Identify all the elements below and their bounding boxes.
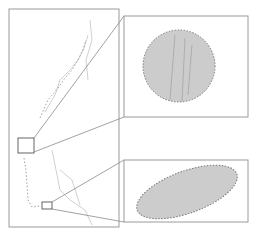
map-diagram bbox=[0, 0, 266, 238]
inset-top-region bbox=[143, 30, 215, 102]
